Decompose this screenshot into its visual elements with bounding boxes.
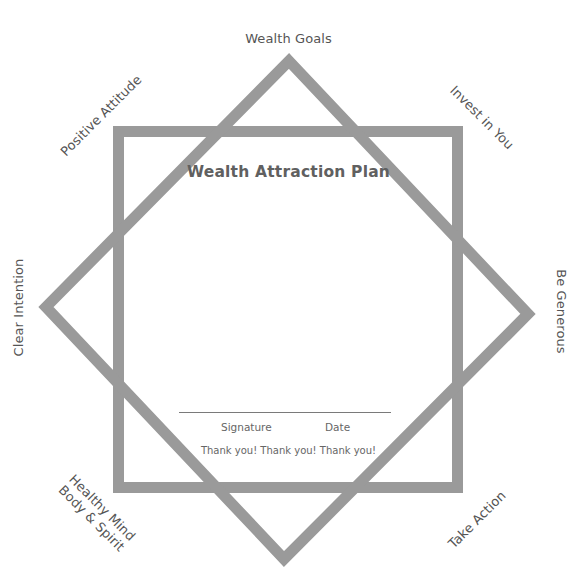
label-clear-intention: Clear Intention (11, 253, 26, 363)
signature-label: Signature (221, 421, 272, 433)
thank-you-text: Thank you! Thank you! Thank you! (0, 445, 577, 456)
wealth-attraction-diagram: Wealth Attraction Plan Wealth Goals Inve… (0, 0, 577, 581)
plan-title: Wealth Attraction Plan (0, 163, 577, 181)
label-be-generous: Be Generous (554, 262, 569, 362)
label-wealth-goals: Wealth Goals (0, 31, 577, 46)
date-label: Date (325, 421, 350, 433)
signature-line (179, 412, 391, 413)
